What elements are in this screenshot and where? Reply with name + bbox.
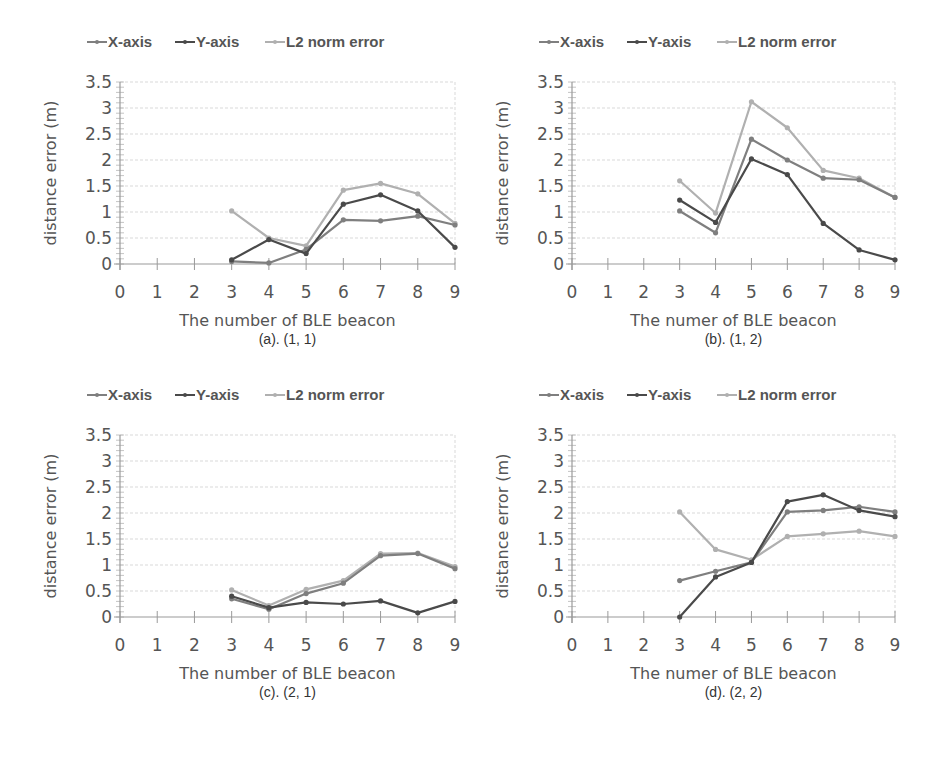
data-point-y-axis [892, 514, 897, 519]
x-axis-title: The numer of BLE beacon [629, 311, 836, 330]
data-point-y-axis [677, 197, 682, 202]
chart-b-svg: X-axisY-axisL2 norm error00.511.522.533.… [469, 0, 938, 370]
data-point-x-axis [266, 260, 271, 265]
y-tick-label: 3.5 [85, 425, 112, 445]
legend-marker [725, 40, 729, 44]
data-point-x-axis [857, 177, 862, 182]
data-point-y-axis [304, 251, 309, 256]
y-tick-label: 3 [101, 98, 112, 118]
legend-label: L2 norm error [286, 386, 385, 403]
x-tick-label: 8 [854, 635, 865, 655]
legend-marker [273, 393, 277, 397]
data-point-y-axis [452, 599, 457, 604]
data-point-l2-norm-error [341, 188, 346, 193]
data-point-x-axis [821, 508, 826, 513]
data-point-y-axis [785, 172, 790, 177]
x-tick-label: 6 [338, 282, 349, 302]
chart-caption: (a). (1, 1) [259, 331, 317, 347]
y-tick-label: 2 [553, 503, 564, 523]
x-axis-title: The number of BLE beacon [178, 664, 396, 683]
legend-label: L2 norm error [738, 33, 837, 50]
x-tick-label: 3 [226, 635, 237, 655]
x-tick-label: 3 [674, 282, 685, 302]
y-axis-title: distance error (m) [493, 454, 512, 599]
y-tick-label: 1 [553, 555, 564, 575]
x-tick-label: 6 [338, 635, 349, 655]
data-point-x-axis [713, 230, 718, 235]
data-point-l2-norm-error [785, 125, 790, 130]
x-tick-label: 2 [189, 635, 200, 655]
data-point-x-axis [304, 591, 309, 596]
x-tick-label: 1 [602, 635, 613, 655]
x-tick-label: 1 [152, 282, 163, 302]
data-point-x-axis [452, 222, 457, 227]
y-tick-label: 2.5 [85, 477, 112, 497]
y-tick-label: 2.5 [537, 477, 564, 497]
y-tick-label: 0.5 [85, 228, 112, 248]
x-tick-label: 4 [710, 282, 721, 302]
x-tick-label: 3 [226, 282, 237, 302]
y-tick-label: 2 [101, 503, 112, 523]
x-axis-title: The numer of BLE beacon [629, 664, 836, 683]
x-tick-label: 0 [567, 282, 578, 302]
data-point-x-axis [677, 578, 682, 583]
y-tick-label: 1 [101, 202, 112, 222]
legend-label: Y-axis [648, 33, 691, 50]
x-tick-label: 2 [189, 282, 200, 302]
series-line-l2-norm-error [680, 102, 895, 213]
legend-label: Y-axis [196, 386, 239, 403]
y-tick-label: 3 [101, 451, 112, 471]
chart-d-svg: X-axisY-axisL2 norm error00.511.522.533.… [469, 370, 938, 740]
data-point-y-axis [749, 156, 754, 161]
data-point-y-axis [266, 237, 271, 242]
data-point-y-axis [785, 499, 790, 504]
chart-a-svg: X-axisY-axisL2 norm error00.511.522.533.… [0, 0, 469, 370]
legend-marker [547, 393, 551, 397]
x-tick-label: 9 [890, 282, 901, 302]
data-point-l2-norm-error [857, 529, 862, 534]
legend-marker [273, 40, 277, 44]
data-point-l2-norm-error [821, 531, 826, 536]
y-tick-label: 2.5 [537, 124, 564, 144]
data-point-x-axis [892, 195, 897, 200]
data-point-y-axis [415, 208, 420, 213]
series-line-x-axis [232, 216, 455, 263]
data-point-x-axis [452, 566, 457, 571]
chart-panel-d: X-axisY-axisL2 norm error00.511.522.533.… [469, 370, 938, 740]
y-tick-label: 2 [553, 150, 564, 170]
x-tick-label: 9 [890, 635, 901, 655]
data-point-y-axis [749, 560, 754, 565]
legend-label: X-axis [560, 386, 604, 403]
data-point-l2-norm-error [229, 208, 234, 213]
y-tick-label: 1 [553, 202, 564, 222]
y-tick-label: 0 [101, 607, 112, 627]
data-point-x-axis [749, 137, 754, 142]
y-tick-label: 1.5 [85, 529, 112, 549]
legend-marker [635, 393, 639, 397]
x-tick-label: 5 [301, 282, 312, 302]
legend-label: X-axis [108, 33, 152, 50]
y-tick-label: 3.5 [85, 72, 112, 92]
data-point-x-axis [378, 218, 383, 223]
legend-marker [635, 40, 639, 44]
data-point-y-axis [415, 610, 420, 615]
data-point-y-axis [229, 257, 234, 262]
chart-panel-a: X-axisY-axisL2 norm error00.511.522.533.… [0, 0, 469, 370]
data-point-x-axis [378, 553, 383, 558]
data-point-x-axis [677, 208, 682, 213]
x-tick-label: 5 [746, 282, 757, 302]
data-point-l2-norm-error [677, 178, 682, 183]
data-point-x-axis [713, 569, 718, 574]
data-point-x-axis [785, 157, 790, 162]
data-point-y-axis [378, 192, 383, 197]
data-point-x-axis [415, 214, 420, 219]
y-tick-label: 1.5 [85, 176, 112, 196]
x-tick-label: 3 [674, 635, 685, 655]
legend-marker [547, 40, 551, 44]
x-tick-label: 9 [450, 635, 461, 655]
x-tick-label: 6 [782, 282, 793, 302]
y-tick-label: 1.5 [537, 176, 564, 196]
data-point-l2-norm-error [785, 534, 790, 539]
data-point-y-axis [821, 492, 826, 497]
x-tick-label: 6 [782, 635, 793, 655]
